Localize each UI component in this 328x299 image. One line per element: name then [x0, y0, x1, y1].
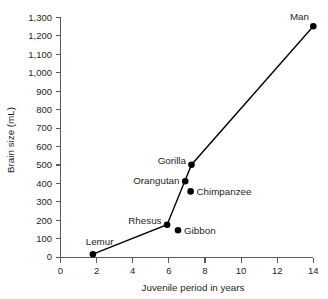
- x-tick-label: 2: [94, 265, 99, 276]
- data-point-gibbon[interactable]: [175, 227, 182, 234]
- data-label-lemur: Lemur: [86, 236, 115, 247]
- data-point-lemur[interactable]: [90, 251, 97, 258]
- y-tick-label: 0: [47, 251, 52, 262]
- y-tick-label: 200: [36, 215, 52, 226]
- x-axis-title: Juvenile period in years: [142, 282, 245, 293]
- y-tick-label: 900: [36, 86, 52, 97]
- data-label-orangutan: Orangutan: [133, 175, 179, 186]
- data-point-orangutan[interactable]: [182, 178, 189, 185]
- x-tick-label: 0: [58, 265, 63, 276]
- y-tick-label: 400: [36, 178, 52, 189]
- chart-axes-lines: [61, 17, 314, 258]
- x-tick-label: 6: [166, 265, 171, 276]
- data-point-rhesus[interactable]: [164, 221, 171, 228]
- y-tick-label: 1,000: [28, 67, 52, 78]
- data-label-rhesus: Rhesus: [128, 215, 161, 226]
- x-tick-label: 8: [202, 265, 207, 276]
- data-point-man[interactable]: [310, 23, 317, 30]
- brain-size-chart-figure: 1,300 1,200 1,100 1,000 900 800 700 600 …: [0, 0, 328, 299]
- y-tick-label: 1,200: [28, 30, 52, 41]
- y-axis-tick-labels: 1,300 1,200 1,100 1,000 900 800 700 600 …: [28, 12, 52, 263]
- y-tick-label: 800: [36, 104, 52, 115]
- x-axis-tick-labels: 0 2 4 6 8 10 12 14: [58, 265, 319, 276]
- x-tick-label: 14: [308, 265, 319, 276]
- data-points-group: [90, 23, 317, 258]
- data-point-gorilla[interactable]: [188, 161, 195, 168]
- x-axis-tick-marks: [61, 258, 314, 263]
- y-tick-label: 100: [36, 233, 52, 244]
- y-tick-label: 700: [36, 122, 52, 133]
- y-tick-label: 300: [36, 196, 52, 207]
- y-tick-label: 1,300: [28, 12, 52, 23]
- x-tick-label: 10: [236, 265, 247, 276]
- data-point-labels: Lemur Rhesus Gibbon Orangutan Chimpanzee…: [86, 11, 309, 247]
- y-tick-label: 600: [36, 141, 52, 152]
- y-tick-label: 1,100: [28, 49, 52, 60]
- y-tick-label: 500: [36, 159, 52, 170]
- data-label-chimpanzee: Chimpanzee: [197, 186, 253, 197]
- y-axis-title: Brain size (mL): [5, 107, 16, 173]
- x-tick-label: 12: [272, 265, 283, 276]
- chart-canvas: 1,300 1,200 1,100 1,000 900 800 700 600 …: [0, 0, 328, 299]
- series-connecting-line: [93, 26, 313, 254]
- x-tick-label: 4: [130, 265, 135, 276]
- y-axis-tick-marks: [56, 18, 61, 258]
- data-point-chimpanzee[interactable]: [187, 188, 194, 195]
- data-label-gorilla: Gorilla: [158, 155, 187, 166]
- data-label-gibbon: Gibbon: [184, 225, 216, 236]
- data-label-man: Man: [290, 11, 309, 22]
